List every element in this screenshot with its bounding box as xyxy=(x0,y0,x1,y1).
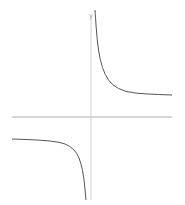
left-branch-curve xyxy=(12,139,86,200)
hyperbola-plot xyxy=(0,0,185,205)
y-axis-label: y xyxy=(89,12,93,20)
right-branch-curve xyxy=(95,10,172,95)
